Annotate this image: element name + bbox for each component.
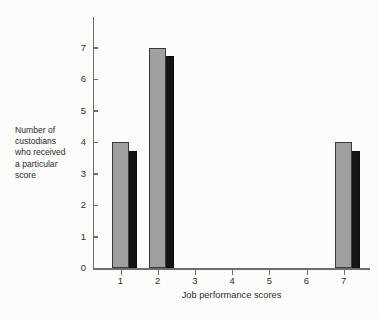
bar-shadow	[128, 151, 138, 269]
y-tick-mark	[93, 142, 98, 143]
y-axis-title: Number ofcustodianswho receiveda particu…	[15, 125, 87, 181]
bar	[149, 48, 166, 268]
x-tick-mark	[195, 270, 196, 275]
y-tick-mark	[93, 268, 98, 269]
y-tick-label: 0	[72, 263, 86, 273]
y-axis-title-line: a particular	[15, 159, 87, 170]
x-tick-label: 2	[150, 276, 166, 286]
x-tick-label: 7	[336, 276, 352, 286]
y-axis-title-line: Number of	[15, 125, 87, 136]
x-tick-mark	[307, 270, 308, 275]
y-tick-mark	[93, 173, 98, 174]
y-tick-label: 2	[72, 200, 86, 210]
y-tick-mark	[93, 110, 98, 111]
y-axis-title-line: custodians	[15, 136, 87, 147]
y-tick-mark	[93, 79, 98, 80]
x-tick-mark	[232, 270, 233, 275]
y-axis-title-line: score	[15, 170, 87, 181]
y-tick-label: 7	[72, 43, 86, 53]
bar-chart-figure: 01234567 1234567 Number ofcustodianswho …	[0, 0, 378, 319]
y-axis-title-line: who received	[15, 147, 87, 158]
bar-shadow	[351, 151, 361, 269]
y-tick-label: 1	[72, 232, 86, 242]
y-tick-label: 5	[72, 106, 86, 116]
bar-shadow	[165, 56, 175, 268]
x-tick-label: 5	[261, 276, 277, 286]
x-tick-mark	[158, 270, 159, 275]
x-tick-label: 4	[224, 276, 240, 286]
y-tick-label: 6	[72, 74, 86, 84]
x-tick-label: 1	[113, 276, 129, 286]
x-tick-mark	[269, 270, 270, 275]
x-tick-label: 3	[187, 276, 203, 286]
y-tick-mark	[93, 236, 98, 237]
bar	[335, 142, 352, 268]
bar	[112, 142, 129, 268]
y-tick-mark	[93, 47, 98, 48]
x-axis-title: Job performance scores	[93, 290, 370, 300]
x-tick-mark	[121, 270, 122, 275]
x-tick-mark	[344, 270, 345, 275]
y-tick-mark	[93, 205, 98, 206]
x-tick-label: 6	[299, 276, 315, 286]
